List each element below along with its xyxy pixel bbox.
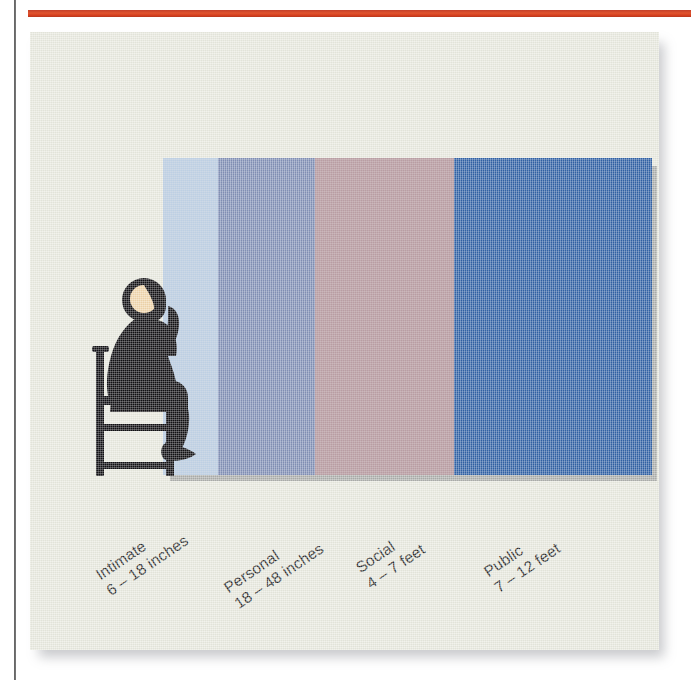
seated-person-figure xyxy=(82,276,214,484)
zone-label-intimate: Intimate 6 – 18 inches xyxy=(92,515,192,600)
zone-band-social xyxy=(315,158,454,475)
page-root: Intimate 6 – 18 inches Personal 18 – 48 … xyxy=(0,0,691,680)
zone-label-social: Social 4 – 7 feet xyxy=(352,524,428,593)
zone-label-personal: Personal 18 – 48 inches xyxy=(220,523,327,612)
zone-band-panel xyxy=(163,158,652,475)
head-icon xyxy=(122,278,166,323)
zone-band-personal xyxy=(218,158,315,475)
zone-band-public xyxy=(454,158,652,475)
zone-label-public: Public 7 – 12 feet xyxy=(480,523,564,597)
person-silhouette xyxy=(107,306,196,461)
page-gutter-rule xyxy=(14,0,16,680)
top-red-rule xyxy=(28,10,691,17)
figure-card: Intimate 6 – 18 inches Personal 18 – 48 … xyxy=(30,32,659,650)
